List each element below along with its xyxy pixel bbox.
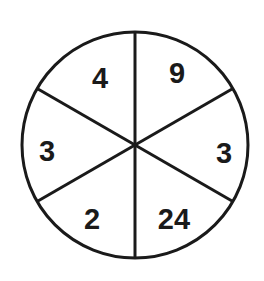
sector-bottom-left-value: 2 (84, 203, 100, 235)
wheel-svg: 4 9 3 24 2 3 (0, 0, 264, 281)
sector-right-value: 3 (216, 137, 232, 169)
sector-left-value: 3 (39, 135, 55, 167)
number-wheel-diagram: 4 9 3 24 2 3 (0, 0, 264, 281)
sector-top-right-value: 9 (169, 57, 185, 89)
sector-top-left-value: 4 (92, 62, 108, 94)
sector-bottom-right-value: 24 (158, 203, 190, 235)
